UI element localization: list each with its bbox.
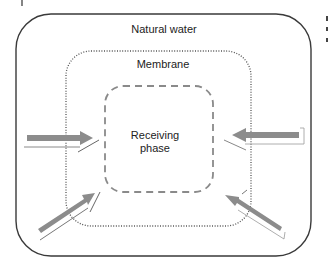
arrow-left-icon: [24, 131, 99, 152]
receiving-phase-line2: phase: [115, 142, 195, 155]
receiving-phase-label: Receiving phase: [115, 129, 195, 155]
natural-water-label: Natural water: [114, 23, 214, 36]
receiving-phase-line1: Receiving: [115, 129, 195, 142]
arrow-bottom-right-icon: [225, 190, 285, 239]
membrane-label: Membrane: [118, 58, 208, 71]
arrow-bottom-left-icon: [38, 192, 100, 240]
arrow-right-icon: [224, 128, 304, 150]
